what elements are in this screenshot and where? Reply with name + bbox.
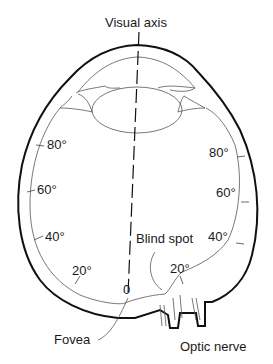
ciliary-body-left	[60, 94, 92, 112]
fovea-label: Fovea	[54, 332, 91, 347]
optic-nerve-fibers	[160, 295, 200, 326]
zero-degree-label: 0	[123, 282, 130, 297]
iris-left	[76, 86, 120, 93]
left-20-label: 20°	[72, 263, 92, 278]
left-80-label: 80°	[47, 137, 67, 152]
optic-nerve-label: Optic nerve	[180, 339, 246, 354]
left-60-label: 60°	[37, 182, 57, 197]
eye-cross-section-diagram: Visual axis 80° 60° 40° 20° 80° 60° 40° …	[0, 0, 273, 364]
blind-spot-label: Blind spot	[136, 231, 193, 246]
right-40-label: 40°	[208, 229, 228, 244]
left-40-label: 40°	[45, 229, 65, 244]
right-degree-ticks	[180, 156, 249, 284]
visual-axis-label: Visual axis	[105, 15, 167, 30]
right-20-label: 20°	[170, 261, 190, 276]
iris-right	[158, 86, 195, 91]
right-80-label: 80°	[209, 145, 229, 160]
blind-spot-leader	[150, 252, 162, 290]
right-60-label: 60°	[216, 185, 236, 200]
visual-axis-line	[128, 32, 139, 295]
